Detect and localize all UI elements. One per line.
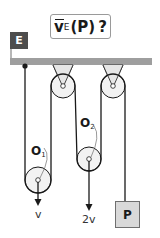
question-mark: ? [98,18,107,36]
movable-pulley-o2-axle [87,157,92,162]
velocity-symbol: v [54,18,64,36]
arrow-head-icon [86,204,93,211]
velocity-argument: (P) [71,18,96,36]
fixed-pulley-1-axle [61,84,66,89]
velocity-label-o2: 2v [82,214,96,225]
ceiling-bar [10,58,152,65]
pulley-label-o2: O2 [80,117,95,131]
reference-frame-label: E [10,32,28,49]
mass-block-p: P [115,201,140,228]
question-title: vE(P)? [50,14,111,39]
velocity-label-o1: v [35,209,42,220]
pulley-diagram: E vE(P)? O1 O2 v 2v P [0,0,160,238]
pulley-label-o1: O1 [31,145,46,159]
rope-anchor-dot [22,63,27,68]
arrow-head-icon [35,199,42,206]
movable-pulley-o1-axle [36,178,41,183]
fixed-pulley-2-axle [111,84,116,89]
velocity-subscript: E [64,22,70,32]
